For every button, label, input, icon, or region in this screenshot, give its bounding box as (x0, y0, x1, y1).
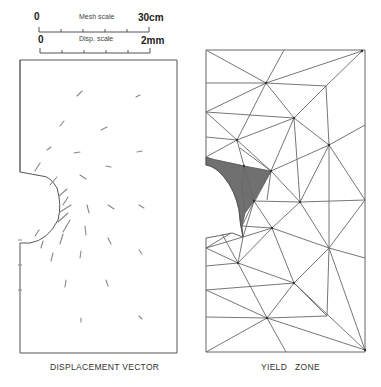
displacement-arrows (35, 91, 144, 322)
displacement-vector-panel (20, 60, 177, 353)
disp-scale-bar (40, 48, 150, 53)
right-panel-caption: YIELD ZONE (261, 362, 320, 372)
left-panel-caption: DISPLACEMENT VECTOR (50, 362, 159, 372)
yield-zone-mesh (206, 50, 365, 352)
figure-canvas (0, 0, 381, 387)
mesh-scale-bar (39, 27, 149, 32)
